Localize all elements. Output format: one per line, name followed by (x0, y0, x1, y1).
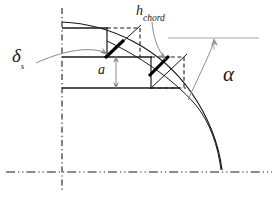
blade-segment-1 (105, 40, 124, 58)
outer-blade-curve (62, 22, 222, 170)
blade-cell-2 (149, 54, 187, 89)
blade-curves (62, 22, 222, 170)
h-chord-subscript: chord (143, 13, 165, 23)
delta-s-subscript: s (21, 61, 25, 71)
label-delta-s: δs (12, 46, 24, 69)
centerlines (6, 8, 272, 190)
dimension-arrow-a (113, 56, 119, 89)
delta-s-leader (36, 47, 108, 63)
alpha-angle-indicator (188, 38, 218, 100)
h-chord-leader-line (152, 22, 163, 56)
blade-cell-1 (105, 25, 141, 58)
label-a: a (98, 63, 105, 77)
label-h-chord: hchord (136, 4, 165, 21)
blade-cascade-diagram: δs hchord a α (0, 0, 278, 199)
h-chord-symbol: h (136, 3, 143, 18)
alpha-arc (188, 42, 214, 100)
delta-s-symbol: δ (12, 45, 21, 66)
diagram-canvas (0, 0, 278, 199)
delta-s-leader-line (36, 50, 104, 63)
alpha-arrowhead-icon (211, 38, 218, 46)
label-alpha: α (223, 64, 234, 85)
horizontal-rails (62, 28, 180, 88)
